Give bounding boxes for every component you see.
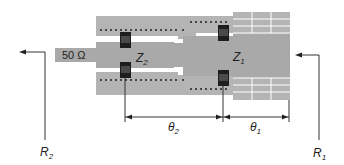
top-ground-strip: [96, 16, 233, 39]
r1-reference-arrow: [295, 53, 319, 141]
grid-block-top: [233, 12, 290, 34]
r2-reference-arrow: [19, 50, 45, 141]
z2-component-top-body: [121, 36, 130, 43]
grid-block-bottom: [233, 78, 290, 100]
port-label: 50 Ω: [62, 49, 86, 61]
r2-label: R2: [40, 145, 54, 161]
z1-component-top-body: [219, 29, 228, 36]
impedance-transformer-diagram: 50 Ω Z2 Z1 θ2 θ1 R2 R1: [0, 0, 344, 165]
z2-component-bottom-body: [121, 66, 130, 73]
r1-label: R1: [313, 146, 326, 162]
z1-component-bottom-body: [219, 74, 228, 81]
theta2-label: θ2: [168, 120, 180, 136]
theta1-label: θ1: [250, 120, 261, 136]
